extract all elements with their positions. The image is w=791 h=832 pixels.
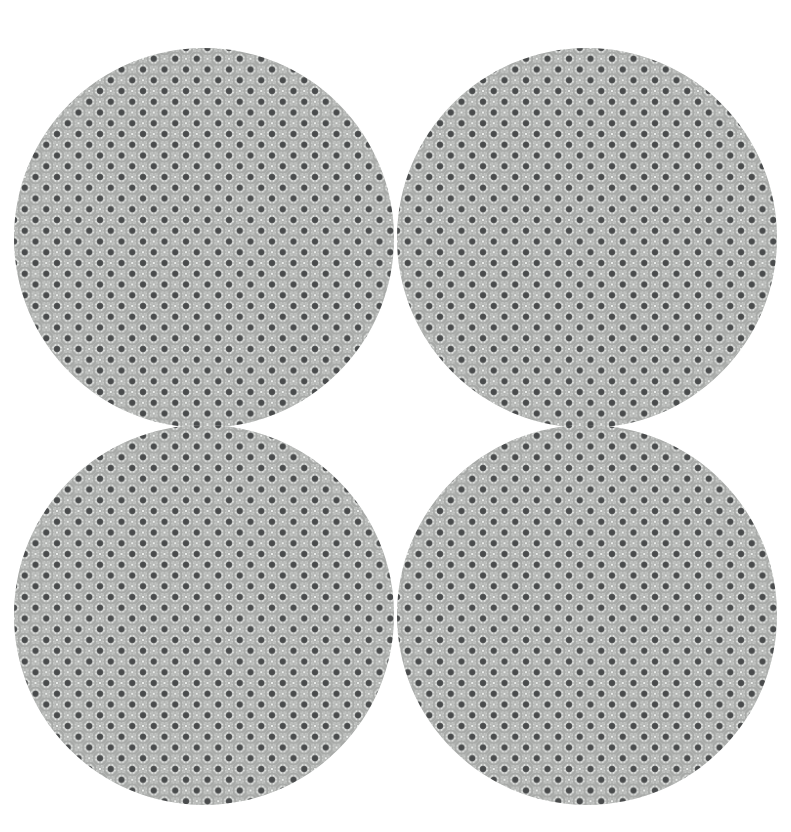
- pattern-fill: [397, 48, 777, 428]
- swatch-top-left[interactable]: [14, 48, 394, 428]
- pattern-fill: [14, 425, 394, 805]
- swatch-bottom-left[interactable]: [14, 425, 394, 805]
- pattern-fill: [14, 48, 394, 428]
- pattern-fill: [397, 425, 777, 805]
- swatch-bottom-right[interactable]: [397, 425, 777, 805]
- swatch-canvas: [0, 0, 791, 832]
- swatch-top-right[interactable]: [397, 48, 777, 428]
